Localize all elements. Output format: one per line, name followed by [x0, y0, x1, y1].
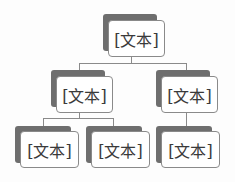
- node-box-level2-left-1: [文本]: [20, 131, 79, 168]
- node-label: [文本]: [168, 138, 212, 162]
- node-label: [文本]: [27, 138, 71, 162]
- node-box-level2-right-1: [文本]: [161, 131, 220, 168]
- connector-right-down: [186, 112, 187, 126]
- node-label: [文本]: [98, 138, 142, 162]
- connector-level1-right-drop: [186, 63, 187, 70]
- node-box-root: [文本]: [108, 20, 165, 57]
- node-box-level2-left-2: [文本]: [91, 131, 150, 168]
- org-chart-diagram: [文本] [文本] [文本] [文本] [文本] [文本]: [0, 0, 235, 182]
- connector-left-horizontal: [43, 118, 114, 119]
- connector-left-child2-drop: [113, 118, 114, 126]
- connector-level1-horizontal: [79, 63, 187, 64]
- node-label: [文本]: [167, 83, 211, 107]
- node-label: [文本]: [62, 83, 106, 107]
- connector-left-child1-drop: [43, 118, 44, 126]
- node-box-level1-right: [文本]: [161, 76, 218, 113]
- node-box-level1-left: [文本]: [56, 76, 113, 113]
- node-label: [文本]: [114, 27, 158, 51]
- connector-level1-left-drop: [79, 63, 80, 70]
